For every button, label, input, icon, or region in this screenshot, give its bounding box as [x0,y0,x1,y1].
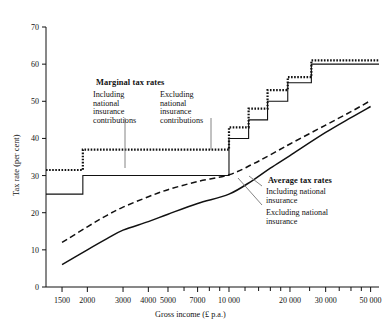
y-axis-tick-label: 60 [31,60,39,69]
annotation-marginal-excluding: Excluding national insurance contributio… [160,91,203,126]
y-axis-tick-label: 20 [31,209,39,218]
x-axis-tick-label: 7000 [190,296,206,305]
x-axis-tick-label: 1500 [54,296,70,305]
x-axis-tick-label: 20 000 [279,296,301,305]
annotation-average-title: Average tax rates [268,177,332,186]
y-axis-title: Tax rate (per cent) [12,135,21,197]
annotation-marginal-including: Including national insurance contributio… [93,91,136,126]
x-axis-tick-label: 5000 [160,296,176,305]
x-axis-tick-label: 3000 [115,296,131,305]
x-axis-tick-label: 50 000 [360,296,382,305]
annotation-line: contributions [93,117,136,126]
y-axis-tick-label: 50 [31,97,39,106]
annotation-average-including: Including national insurance [266,188,326,205]
x-axis-tick-label: 30 000 [315,296,337,305]
x-axis-title: Gross income (£ p.a.) [155,310,226,319]
annotation-line: insurance [266,197,326,206]
tax-rate-chart: 0102030405060701500200030004000500070001… [0,0,387,331]
x-axis-tick-label: 2000 [79,296,95,305]
y-axis-tick-label: 0 [35,283,39,292]
annotation-average-excluding: Excluding national insurance [266,209,328,226]
y-axis-tick-label: 30 [31,172,39,181]
annotation-marginal-title: Marginal tax rates [96,79,164,88]
annotation-line: insurance [266,218,328,227]
chart-plot-area: 0102030405060701500200030004000500070001… [0,0,387,331]
y-axis-tick-label: 10 [31,246,39,255]
x-axis-tick-label: 4000 [140,296,156,305]
x-axis-tick-label: 10 000 [218,296,240,305]
annotation-line: contributions [160,117,203,126]
y-axis-tick-label: 40 [31,134,39,143]
y-axis-tick-label: 70 [31,23,39,32]
